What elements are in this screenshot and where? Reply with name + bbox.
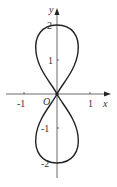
x-tick-label-1: 1 xyxy=(88,98,93,109)
y-tick-label-neg2: -2 xyxy=(41,158,49,169)
x-axis-label: x xyxy=(102,98,108,109)
y-tick-label-1: 1 xyxy=(48,55,53,66)
figure-eight-plot: y x O -1 1 2 1 -1 -2 xyxy=(0,0,117,187)
y-axis-label: y xyxy=(48,4,54,15)
x-axis-arrow-icon xyxy=(104,92,111,97)
origin-point xyxy=(55,92,58,95)
origin-label: O xyxy=(43,96,50,107)
y-axis-arrow-icon xyxy=(55,8,60,15)
x-tick-label-neg1: -1 xyxy=(17,98,25,109)
y-tick-label-neg1: -1 xyxy=(41,123,49,134)
y-tick-label-2: 2 xyxy=(47,20,52,31)
